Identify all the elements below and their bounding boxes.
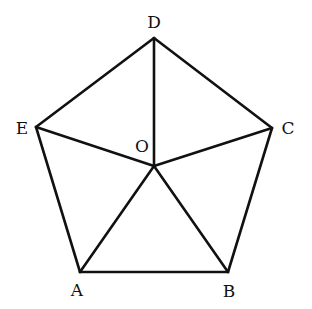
edge-OA xyxy=(80,166,154,272)
edge-OC xyxy=(154,128,272,166)
pentagon-diagram: D E C O A B xyxy=(0,0,312,309)
label-B: B xyxy=(223,281,236,301)
label-O: O xyxy=(135,136,149,156)
edge-BC xyxy=(228,128,272,272)
edge-EA xyxy=(36,127,80,272)
edge-OB xyxy=(154,166,228,272)
label-D: D xyxy=(147,12,161,32)
label-A: A xyxy=(70,280,84,300)
label-E: E xyxy=(16,118,28,138)
label-C: C xyxy=(281,118,294,138)
edge-DE xyxy=(36,38,154,127)
edge-CD xyxy=(154,38,272,128)
edges xyxy=(36,38,272,272)
